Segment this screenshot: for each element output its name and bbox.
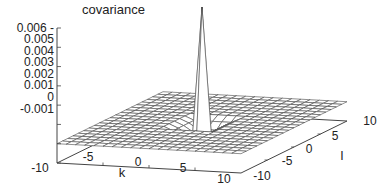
surface-mesh: [57, 7, 347, 154]
k-tick-label: 0: [135, 155, 142, 169]
l-tick-label: 10: [363, 114, 377, 128]
k-axis-title: k: [119, 165, 126, 180]
z-tick-label: -0.001: [20, 102, 54, 116]
l-tick-label: 0: [306, 142, 313, 156]
z-axis-title: covariance: [82, 2, 145, 17]
k-tick-label: 10: [217, 172, 231, 186]
l-axis-title: l: [341, 148, 344, 163]
k-tick-label: -5: [83, 150, 94, 164]
k-tick-label: -10: [31, 161, 49, 175]
l-tick-label: -5: [282, 154, 293, 168]
surface-plot: covariance 0.006 - 0.005 0.004 0.003 0.0…: [0, 0, 391, 194]
l-tick-label: -10: [253, 169, 271, 183]
l-tick-label: 5: [332, 129, 339, 143]
k-tick-label: 5: [180, 161, 187, 175]
